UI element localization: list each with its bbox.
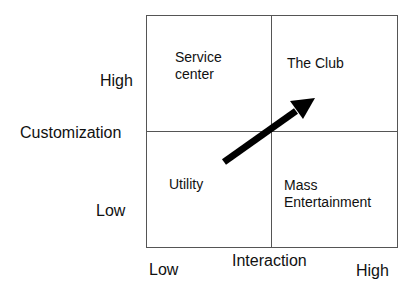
x-axis-title: Interaction (232, 253, 307, 269)
x-axis-low-label: Low (149, 262, 178, 278)
arrow-icon (0, 0, 418, 288)
x-axis-high-label: High (356, 263, 389, 279)
